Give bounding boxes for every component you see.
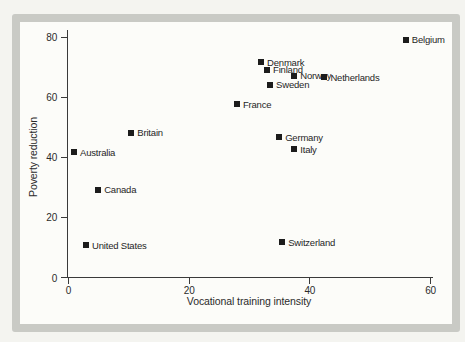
data-point-britain [128, 130, 134, 136]
data-point-label-belgium: Belgium [412, 35, 445, 45]
y-tick-40 [61, 157, 67, 158]
data-point-canada [95, 187, 101, 193]
plot-area: Poverty reduction Vocational training in… [0, 0, 465, 342]
data-point-denmark [258, 59, 264, 65]
data-point-united-states [83, 242, 89, 248]
data-point-germany [276, 134, 282, 140]
y-tick-label-60: 60 [35, 92, 57, 103]
data-point-label-britain: Britain [137, 128, 163, 138]
data-point-switzerland [279, 239, 285, 245]
y-tick-20 [61, 217, 67, 218]
x-tick-label-40: 40 [304, 285, 315, 296]
y-tick-80 [61, 37, 67, 38]
data-point-label-australia: Australia [80, 148, 115, 158]
data-point-label-finland: Finland [273, 65, 303, 75]
data-point-australia [71, 149, 77, 155]
x-axis-line [67, 277, 433, 278]
x-tick-60 [430, 278, 431, 284]
data-point-label-netherlands: Netherlands [330, 73, 379, 83]
data-point-label-united-states: United States [92, 241, 146, 251]
x-tick-label-60: 60 [425, 285, 436, 296]
x-tick-label-0: 0 [66, 285, 71, 296]
data-point-sweden [267, 82, 273, 88]
x-tick-20 [189, 278, 190, 284]
data-point-finland [264, 67, 270, 73]
data-point-label-france: France [243, 100, 271, 110]
y-tick-0 [61, 277, 67, 278]
data-point-label-germany: Germany [285, 133, 323, 143]
y-axis-line [67, 30, 68, 278]
data-point-italy [291, 146, 297, 152]
y-tick-label-80: 80 [35, 32, 57, 43]
scatter-plot-figure: Poverty reduction Vocational training in… [0, 0, 465, 342]
x-tick-0 [68, 278, 69, 284]
data-point-label-italy: Italy [300, 145, 316, 155]
data-point-label-sweden: Sweden [276, 80, 309, 90]
data-point-label-canada: Canada [104, 186, 136, 196]
data-point-label-switzerland: Switzerland [288, 238, 335, 248]
data-point-norway [291, 73, 297, 79]
y-tick-label-0: 0 [35, 272, 57, 283]
data-point-belgium [403, 37, 409, 43]
data-point-france [234, 101, 240, 107]
y-tick-60 [61, 97, 67, 98]
x-axis-title: Vocational training intensity [187, 295, 311, 307]
x-tick-label-20: 20 [184, 285, 195, 296]
data-point-netherlands [321, 74, 327, 80]
y-tick-label-40: 40 [35, 152, 57, 163]
y-tick-label-20: 20 [35, 212, 57, 223]
x-tick-40 [309, 278, 310, 284]
